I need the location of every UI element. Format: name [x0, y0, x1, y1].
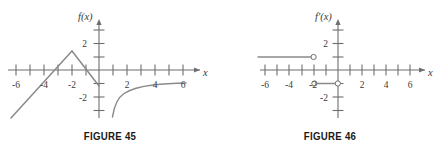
- x-tick-label-6-46: 6: [408, 80, 413, 90]
- x-axis-arrowhead: [419, 67, 425, 72]
- axes-group-45: [8, 19, 200, 118]
- figure-45: f(x) x -6 -4 -2 2 4 6 2 -2 FIGURE 45: [0, 0, 220, 158]
- figure-46-plot: f'(x) x -6 -4 -2 2 4 6 2 -2: [220, 0, 440, 130]
- x-tick-label-minus2-46: -2: [309, 80, 317, 90]
- axes-group-46: [260, 19, 425, 118]
- open-point-0-minus1: [335, 81, 340, 86]
- y-tick-label-minus2-45: -2: [79, 93, 87, 103]
- x-tick-label-2-46: 2: [360, 80, 365, 90]
- x-tick-label-minus4-45: -4: [40, 80, 48, 90]
- x-axis-arrowhead: [194, 67, 200, 72]
- y-axis-label-45: f(x): [78, 11, 93, 23]
- x-tick-label-minus6-45: -6: [12, 80, 20, 90]
- figure-45-caption: FIGURE 45: [13, 130, 207, 142]
- x-tick-label-4-45: 4: [153, 80, 158, 90]
- open-point-minus2-1: [311, 54, 316, 59]
- y-axis-arrowhead: [96, 19, 101, 25]
- falling-segment-45: [72, 51, 99, 86]
- logarithmic-branch-45: [113, 83, 187, 117]
- y-axis-label-46: f'(x): [315, 11, 332, 23]
- x-tick-label-minus4-46: -4: [285, 80, 293, 90]
- x-tick-label-minus6-46: -6: [261, 80, 269, 90]
- figure-45-svg: f(x) x -6 -4 -2 2 4 6 2 -2: [0, 0, 220, 130]
- x-tick-label-6-45: 6: [181, 80, 186, 90]
- figure-pair-page: f(x) x -6 -4 -2 2 4 6 2 -2 FIGURE 45: [0, 0, 440, 158]
- y-tick-label-2-46: 2: [323, 39, 328, 49]
- figure-46-svg: f'(x) x -6 -4 -2 2 4 6 2 -2: [220, 0, 440, 130]
- x-axis-label-45: x: [202, 67, 208, 78]
- figure-45-plot: f(x) x -6 -4 -2 2 4 6 2 -2: [0, 0, 220, 130]
- figure-46-caption: FIGURE 46: [233, 130, 427, 142]
- y-axis-arrowhead: [335, 19, 340, 25]
- figure-46: f'(x) x -6 -4 -2 2 4 6 2 -2 FIGURE 46: [220, 0, 440, 158]
- x-tick-label-4-46: 4: [384, 80, 389, 90]
- y-tick-label-minus2-46: -2: [320, 93, 328, 103]
- x-tick-label-2-45: 2: [125, 80, 130, 90]
- y-tick-label-2-45: 2: [82, 39, 87, 49]
- x-axis-label-46: x: [427, 67, 433, 78]
- x-tick-label-minus2-45: -2: [68, 80, 76, 90]
